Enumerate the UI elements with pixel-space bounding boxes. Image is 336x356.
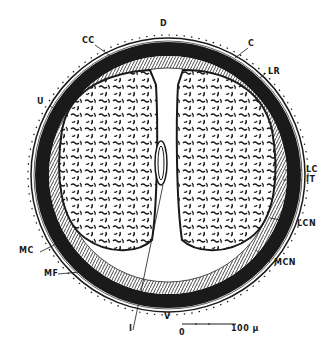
label-LC: LC bbox=[306, 166, 318, 174]
scale-bar bbox=[182, 323, 236, 325]
label-I: I bbox=[129, 325, 132, 333]
central-canal bbox=[155, 141, 167, 185]
label-C: C bbox=[248, 40, 254, 48]
scale-end: 100 µ bbox=[231, 325, 259, 333]
cross-section-diagram bbox=[0, 0, 336, 356]
label-LCN: LCN bbox=[297, 220, 316, 228]
label-MC: MC bbox=[19, 247, 34, 255]
label-MCN: MCN bbox=[274, 259, 296, 267]
label-D: D bbox=[160, 20, 167, 28]
label-CC: CC bbox=[82, 37, 95, 45]
label-V: V bbox=[164, 313, 171, 321]
label-LR: LR bbox=[268, 68, 280, 76]
label-MF: MF bbox=[44, 270, 58, 278]
label-U: U bbox=[37, 98, 44, 106]
label-IT: IT bbox=[306, 176, 315, 184]
scale-start: 0 bbox=[179, 329, 185, 337]
